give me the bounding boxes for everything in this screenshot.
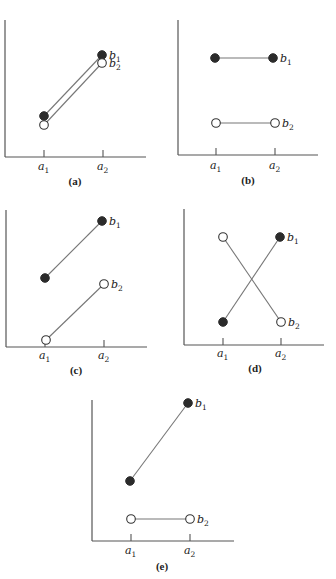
series-b1: b1: [211, 52, 292, 67]
x-tick-label-a1: a1: [125, 544, 136, 559]
filled-circle-marker: [184, 399, 193, 408]
open-circle-marker: [42, 336, 51, 345]
series-line: [44, 63, 102, 125]
series-line: [44, 55, 102, 116]
filled-circle-marker: [40, 112, 49, 121]
series-b2: b2: [212, 117, 294, 132]
panel-c: a1a2b1b2(c): [6, 210, 147, 377]
x-tick-label-a1: a1: [217, 347, 228, 362]
open-circle-marker: [212, 119, 221, 128]
filled-circle-marker: [219, 318, 228, 327]
x-tick-label-a1: a1: [210, 159, 221, 174]
x-tick-label-a1: a1: [39, 349, 50, 364]
open-circle-marker: [271, 119, 280, 128]
panel-caption: (c): [70, 364, 83, 377]
series-label-b1: b1: [287, 231, 299, 246]
filled-circle-marker: [98, 217, 107, 226]
series-b2: b2: [40, 57, 121, 129]
panel-b: a1a2b1b2(b): [178, 20, 318, 187]
series-label-b2: b2: [282, 117, 294, 132]
open-circle-marker: [219, 233, 228, 242]
series-b1: b1: [41, 215, 121, 282]
panel-e: a1a2b1b2(e): [92, 397, 234, 573]
open-circle-marker: [100, 280, 109, 289]
filled-circle-marker: [126, 477, 135, 486]
x-tick-label-a2: a2: [184, 544, 196, 559]
series-b2: b2: [42, 278, 123, 344]
series-label-b1: b1: [109, 215, 121, 230]
series-line: [45, 221, 102, 278]
open-circle-marker: [277, 318, 286, 327]
panel-caption: (b): [241, 174, 255, 187]
open-circle-marker: [98, 59, 107, 68]
series-label-b2: b2: [111, 278, 123, 293]
x-tick-label-a2: a2: [269, 159, 281, 174]
series-label-b2: b2: [288, 316, 300, 331]
interaction-plots-figure: a1a2b1b2(a)a1a2b1b2(b)a1a2b1b2(c)a1a2b1b…: [0, 0, 336, 579]
series-b2: b2: [219, 233, 300, 331]
series-b1: b1: [219, 231, 299, 326]
open-circle-marker: [127, 515, 136, 524]
open-circle-marker: [40, 121, 49, 130]
series-b1: b1: [126, 397, 207, 485]
filled-circle-marker: [211, 54, 220, 63]
filled-circle-marker: [276, 233, 285, 242]
x-tick-label-a1: a1: [38, 160, 49, 175]
series-label-b2: b2: [197, 513, 209, 528]
series-b2: b2: [127, 513, 209, 528]
filled-circle-marker: [98, 51, 107, 60]
panel-caption: (e): [156, 560, 169, 573]
x-tick-label-a2: a2: [97, 160, 109, 175]
series-line: [46, 284, 104, 340]
filled-circle-marker: [41, 274, 50, 283]
open-circle-marker: [186, 515, 195, 524]
series-label-b1: b1: [195, 397, 207, 412]
x-tick-label-a2: a2: [275, 347, 287, 362]
panel-a: a1a2b1b2(a): [5, 20, 146, 188]
panel-d: a1a2b1b2(d): [184, 209, 324, 375]
series-line: [130, 403, 188, 481]
panel-caption: (d): [248, 362, 262, 375]
series-label-b1: b1: [280, 52, 292, 67]
filled-circle-marker: [269, 54, 278, 63]
x-tick-label-a2: a2: [98, 349, 110, 364]
panel-caption: (a): [69, 175, 82, 188]
